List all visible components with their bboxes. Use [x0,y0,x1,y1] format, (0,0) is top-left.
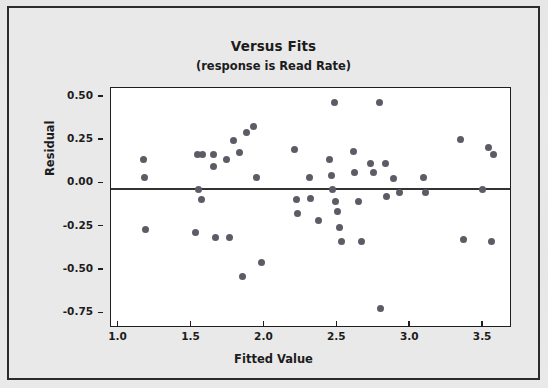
data-point [420,174,427,181]
x-tick-mark [408,321,410,326]
x-tick-mark [190,321,192,326]
plot-frame [110,87,511,327]
data-point [293,196,300,203]
data-point [460,236,467,243]
data-point [485,144,492,151]
y-tick-mark [98,268,103,270]
data-point [350,148,357,155]
y-tick-mark [98,225,103,227]
data-point [376,99,383,106]
data-point [294,210,301,217]
y-tick-label: -0.25 [9,219,93,231]
data-point [315,217,322,224]
data-point [377,305,384,312]
data-point [390,175,397,182]
chart-subtitle: (response is Read Rate) [9,59,538,73]
data-point [258,259,265,266]
data-point [210,151,217,158]
data-point [332,198,339,205]
data-point [306,174,313,181]
data-point [490,151,497,158]
data-point [358,238,365,245]
data-point [382,160,389,167]
data-point [457,136,464,143]
data-point [307,195,314,202]
data-point [223,156,230,163]
y-tick-label: -0.50 [9,262,93,274]
data-point [383,193,390,200]
data-point [141,174,148,181]
data-point [291,146,298,153]
data-point [199,151,206,158]
x-tick-label: 3.0 [400,330,419,342]
data-point [253,174,260,181]
data-point [326,156,333,163]
data-point [236,149,243,156]
data-point [396,189,403,196]
data-point [198,196,205,203]
data-point [367,160,374,167]
x-tick-mark [336,321,338,326]
zero-reference-line [111,188,510,190]
x-tick-mark [263,321,265,326]
data-point [243,129,250,136]
y-axis-label: Residual [43,120,57,176]
data-point [329,186,336,193]
x-tick-mark [481,321,483,326]
data-point [338,238,345,245]
y-tick-mark [98,312,103,314]
y-tick-mark [98,138,103,140]
data-point [239,273,246,280]
y-tick-label: -0.75 [9,305,93,317]
data-point [195,186,202,193]
data-point [355,198,362,205]
x-tick-label: 2.5 [327,330,346,342]
chart-title: Versus Fits [9,38,538,54]
data-point [142,226,149,233]
y-tick-label: 0.25 [9,132,93,144]
plot-area [111,88,510,326]
y-tick-mark [98,95,103,97]
data-point [336,224,343,231]
screenshot-root: Versus Fits (response is Read Rate) Resi… [0,0,548,388]
data-point [488,238,495,245]
scatter-plot-figure: Versus Fits (response is Read Rate) Resi… [9,8,538,378]
data-point [226,234,233,241]
x-tick-label: 3.5 [473,330,492,342]
y-tick-label: 0.00 [9,175,93,187]
x-tick-mark [117,321,119,326]
x-tick-label: 2.0 [254,330,273,342]
data-point [140,156,147,163]
data-point [210,163,217,170]
data-point [479,186,486,193]
x-axis-label: Fitted Value [9,352,538,366]
data-point [370,169,377,176]
y-tick-mark [98,182,103,184]
data-point [212,234,219,241]
data-point [331,99,338,106]
x-tick-label: 1.0 [108,330,127,342]
data-point [250,123,257,130]
data-point [422,189,429,196]
data-point [192,229,199,236]
y-tick-label: 0.50 [9,89,93,101]
data-point [334,208,341,215]
data-point [328,172,335,179]
data-point [230,137,237,144]
figure-border: Versus Fits (response is Read Rate) Resi… [7,6,540,380]
data-point [351,169,358,176]
x-tick-label: 1.5 [181,330,200,342]
